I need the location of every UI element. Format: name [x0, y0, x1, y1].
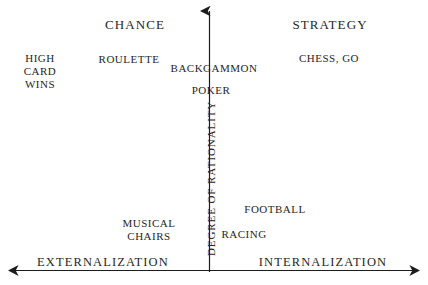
quadrant-heading-chance: CHANCE: [105, 17, 165, 32]
item-musical-chairs: MUSICAL CHAIRS: [122, 217, 175, 243]
item-football: FOOTBALL: [244, 203, 305, 216]
axis-label-externalization: EXTERNALIZATION: [37, 255, 169, 270]
item-chess-go: CHESS, GO: [299, 52, 359, 65]
item-roulette: ROULETTE: [99, 53, 160, 66]
item-poker: POKER: [192, 84, 231, 97]
quadrant-heading-strategy: STRATEGY: [292, 17, 367, 32]
axis-label-internalization: INTERNALIZATION: [259, 255, 387, 270]
quadrant-diagram: CHANCE STRATEGY HIGH CARD WINS ROULETTE …: [0, 0, 428, 285]
item-backgammon: BACKGAMMON: [171, 62, 258, 75]
item-high-card-wins: HIGH CARD WINS: [24, 52, 57, 91]
vertical-axis-label: DEGREE OF RATIONALITY: [205, 101, 217, 256]
item-racing: RACING: [221, 228, 266, 241]
